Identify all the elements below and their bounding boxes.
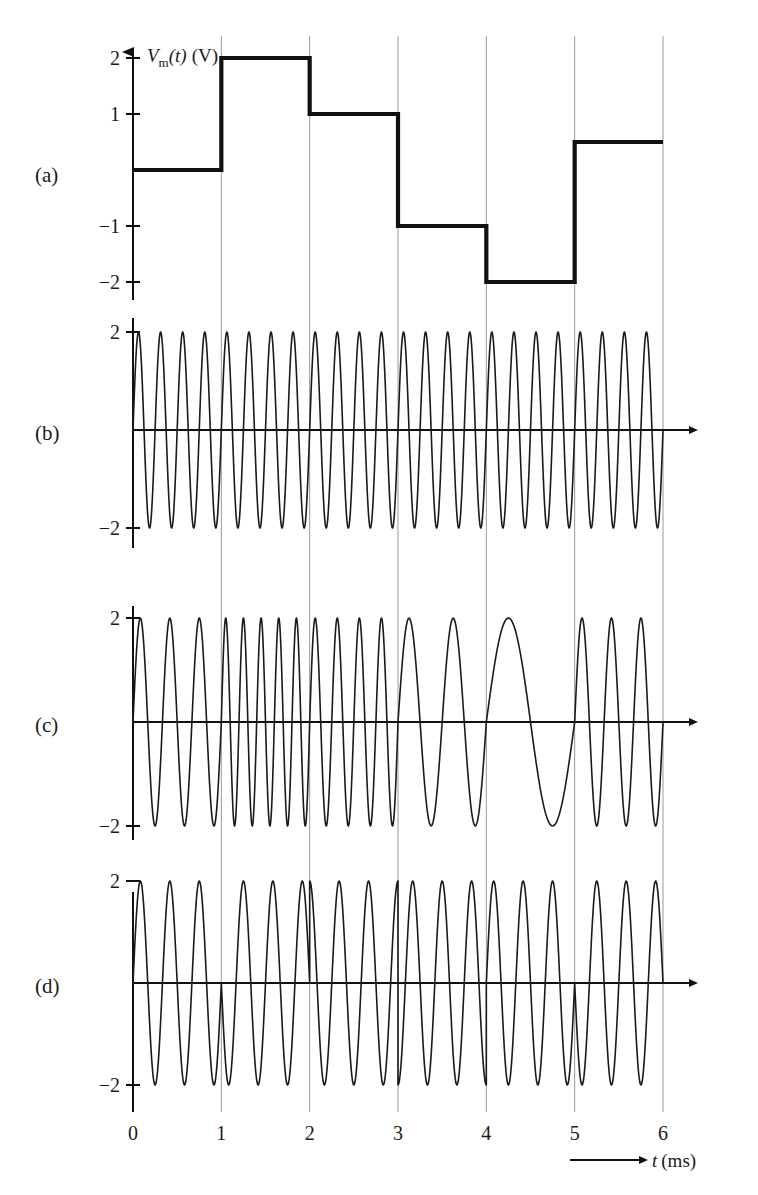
y-tick-label: −2 — [99, 271, 120, 293]
x-tick-label: 6 — [658, 1122, 668, 1144]
x-tick-label: 4 — [481, 1122, 491, 1144]
panel-label-d: (d) — [35, 974, 60, 998]
y-tick-label: 2 — [110, 607, 120, 629]
panel-ask-carrier: 2−2 — [99, 318, 690, 548]
x-tick-label: 2 — [305, 1122, 315, 1144]
y-axis-subscript: m — [159, 55, 169, 70]
y-tick-label: −2 — [99, 517, 120, 539]
panel-label-b: (b) — [35, 421, 60, 445]
y-tick-label: −1 — [99, 215, 120, 237]
y-axis-unit: (V) — [192, 45, 218, 67]
y-axis-argument: (t) — [169, 45, 187, 67]
y-tick-label: 2 — [110, 321, 120, 343]
modulation-figure: 21−1−2 2−2 2−2 2−2 0123456 (a) (b) — [0, 0, 758, 1195]
panel-label-c: (c) — [35, 713, 58, 737]
panel-message-signal: 21−1−2 — [99, 47, 663, 300]
x-axis-ticks: 0123456 — [128, 1122, 668, 1144]
figure-canvas: 21−1−2 2−2 2−2 2−2 0123456 (a) (b) — [0, 0, 758, 1195]
y-tick-label: 2 — [110, 47, 120, 69]
x-axis-symbol: t — [652, 1150, 658, 1171]
panel-fsk-carrier: 2−2 — [99, 606, 690, 840]
gridlines — [221, 36, 663, 1112]
y-tick-label: 1 — [110, 103, 120, 125]
x-axis-unit: (ms) — [661, 1150, 696, 1172]
y-tick-label: 2 — [110, 870, 120, 892]
x-tick-label: 1 — [216, 1122, 226, 1144]
x-tick-label: 5 — [570, 1122, 580, 1144]
x-tick-label: 3 — [393, 1122, 403, 1144]
y-tick-label: −2 — [99, 815, 120, 837]
x-axis-label: t(ms) — [652, 1150, 696, 1172]
panel-psk-carrier: 2−2 — [99, 870, 690, 1112]
x-axis-label-group: t(ms) — [570, 1150, 696, 1172]
y-tick-label: −2 — [99, 1074, 120, 1096]
x-tick-label: 0 — [128, 1122, 138, 1144]
y-axis-label-message: Vm(t)(V) — [147, 45, 218, 70]
y-axis-label-group: Vm(t)(V) — [147, 45, 218, 70]
panel-label-a: (a) — [35, 163, 58, 187]
